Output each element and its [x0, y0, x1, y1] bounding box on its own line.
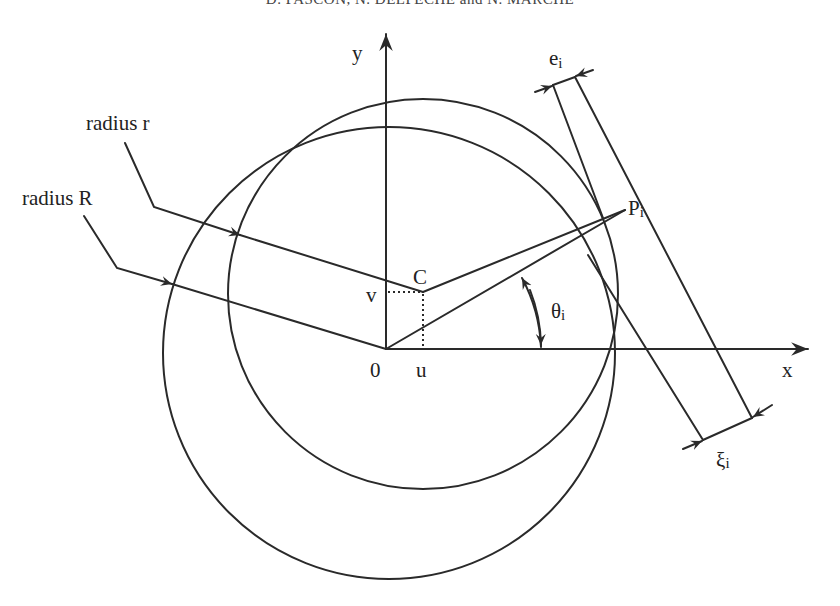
u-label: u — [416, 358, 427, 382]
strip-line-e-left — [553, 85, 603, 218]
geometry-diagram: y x 0 u v C radius r radius R Pi θi ei ξ… — [0, 0, 840, 606]
radius-R-line — [172, 284, 386, 349]
radius-R-label: radius R — [22, 186, 93, 210]
xi-i-label: ξi — [716, 448, 730, 472]
theta-arc — [522, 278, 541, 347]
e-dimension-line — [553, 77, 575, 85]
e-arrow-left — [535, 86, 552, 92]
theta-i-label: θi — [551, 299, 565, 323]
e-i-label: ei — [549, 46, 563, 71]
radius-r-line — [240, 235, 423, 292]
v-label: v — [366, 283, 377, 307]
strip-line-right — [575, 77, 752, 418]
y-axis-label: y — [352, 41, 363, 65]
origin-label: 0 — [370, 358, 381, 382]
point-Pi-label: Pi — [628, 196, 644, 220]
xi-arrow-right — [753, 405, 772, 417]
center-C-label: C — [413, 265, 427, 289]
radius-r-label: radius r — [86, 111, 150, 135]
radius-R-circle — [163, 127, 615, 579]
xi-arrow-left — [683, 441, 702, 449]
radius-R-leader — [84, 216, 172, 284]
e-arrow-right — [576, 70, 593, 76]
x-axis-label: x — [782, 358, 793, 382]
strip-line-xi-left — [588, 255, 703, 440]
radius-r-leader — [125, 143, 240, 235]
xi-dimension-line — [703, 418, 752, 440]
